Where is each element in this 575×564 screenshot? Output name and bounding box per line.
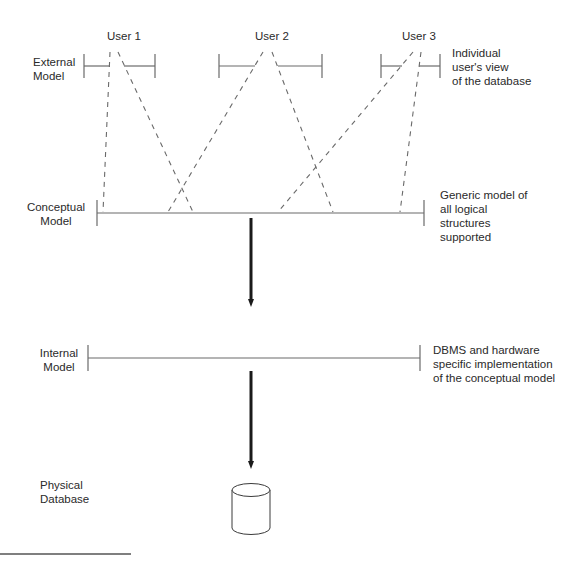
- external-model-description: Individual user's view of the database: [452, 46, 531, 88]
- internal-model-bar: [88, 345, 420, 371]
- arrow-internal-to-physical: [248, 371, 254, 469]
- conceptual-model-label: Conceptual Model: [24, 200, 88, 228]
- user-2-label: User 2: [252, 29, 292, 43]
- arrow-conceptual-to-internal: [248, 218, 254, 307]
- external-model-label: External Model: [33, 55, 75, 83]
- external-model-bars: [84, 54, 440, 78]
- conceptual-model-bar: [97, 200, 424, 226]
- dashed-projection-lines: [103, 52, 421, 212]
- user-3-label: User 3: [399, 29, 439, 43]
- conceptual-model-description: Generic model of all logical structures …: [440, 188, 528, 244]
- internal-model-label: Internal Model: [36, 346, 82, 374]
- internal-model-description: DBMS and hardware specific implementatio…: [433, 343, 555, 385]
- user-1-label: User 1: [104, 29, 144, 43]
- physical-database-label: Physical Database: [40, 478, 89, 506]
- database-cylinder-icon: [232, 484, 270, 535]
